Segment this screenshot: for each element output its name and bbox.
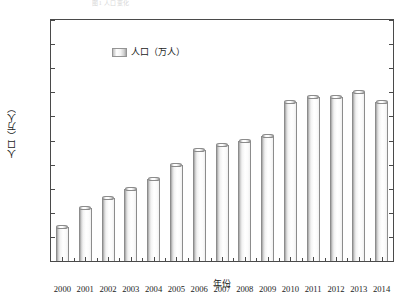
x-axis-tick bbox=[85, 257, 86, 261]
bar-cap bbox=[262, 134, 274, 138]
x-axis-minor-tick bbox=[188, 258, 189, 261]
x-axis-minor-tick bbox=[256, 258, 257, 261]
bar-cap bbox=[307, 95, 319, 99]
bar bbox=[307, 97, 320, 261]
legend-swatch-icon bbox=[112, 48, 127, 57]
bar-cap bbox=[216, 143, 228, 147]
x-axis-minor-tick bbox=[233, 258, 234, 261]
x-axis-minor-tick bbox=[74, 258, 75, 261]
bar bbox=[147, 179, 160, 261]
bar bbox=[284, 102, 297, 261]
bar-cap bbox=[193, 148, 205, 152]
y-axis-tick-right bbox=[389, 189, 393, 190]
y-axis-tick bbox=[51, 92, 55, 93]
plot-area: 3 8003 8053 8103 8153 8203 8253 8303 835… bbox=[50, 19, 394, 262]
population-bar-chart: 图1 人口变化 人口（万人） 3 8003 8053 8103 8153 820… bbox=[0, 0, 409, 302]
x-axis-tick bbox=[290, 257, 291, 261]
bar-cap bbox=[284, 100, 296, 104]
bar bbox=[216, 145, 229, 261]
x-axis-tick bbox=[222, 257, 223, 261]
bar bbox=[170, 165, 183, 261]
y-axis-tick bbox=[51, 20, 55, 21]
x-axis-tick bbox=[359, 257, 360, 261]
x-axis-tick bbox=[62, 257, 63, 261]
x-axis-tick bbox=[199, 257, 200, 261]
bar bbox=[56, 227, 69, 261]
plot-inner: 3 8003 8053 8103 8153 8203 8253 8303 835… bbox=[51, 20, 393, 261]
y-axis-tick bbox=[51, 68, 55, 69]
bar-cap bbox=[148, 177, 160, 181]
bar-cap bbox=[353, 90, 365, 94]
x-axis-minor-tick bbox=[370, 258, 371, 261]
y-axis-tick-right bbox=[389, 92, 393, 93]
y-axis-tick-right bbox=[389, 165, 393, 166]
bar-cap bbox=[376, 100, 388, 104]
y-axis-tick-right bbox=[389, 44, 393, 45]
y-axis-tick bbox=[51, 189, 55, 190]
x-axis-tick bbox=[131, 257, 132, 261]
bar bbox=[102, 198, 115, 261]
bar bbox=[238, 141, 251, 262]
x-axis-minor-tick bbox=[325, 258, 326, 261]
x-axis-tick bbox=[268, 257, 269, 261]
x-axis-minor-tick bbox=[165, 258, 166, 261]
bar-cap bbox=[125, 187, 137, 191]
chart-legend: 人口（万人） bbox=[112, 47, 185, 57]
y-axis-tick-right bbox=[389, 68, 393, 69]
y-axis-tick bbox=[51, 141, 55, 142]
bar bbox=[352, 92, 365, 261]
y-axis-tick-right bbox=[389, 261, 393, 262]
bar bbox=[79, 208, 92, 261]
x-axis-minor-tick bbox=[119, 258, 120, 261]
legend-label: 人口（万人） bbox=[131, 47, 185, 57]
bar-cap bbox=[170, 163, 182, 167]
x-axis-tick bbox=[176, 257, 177, 261]
x-axis-tick bbox=[245, 257, 246, 261]
x-axis-minor-tick bbox=[142, 258, 143, 261]
x-axis-tick bbox=[154, 257, 155, 261]
y-axis-tick-right bbox=[389, 141, 393, 142]
y-axis-title: 人口（万人） bbox=[6, 104, 20, 158]
y-axis-tick bbox=[51, 165, 55, 166]
bar bbox=[261, 136, 274, 261]
y-axis-tick bbox=[51, 261, 55, 262]
x-axis-minor-tick bbox=[97, 258, 98, 261]
bar-cap bbox=[102, 196, 114, 200]
bar-cap bbox=[79, 206, 91, 210]
y-axis-tick-right bbox=[389, 20, 393, 21]
bar bbox=[330, 97, 343, 261]
y-axis-tick bbox=[51, 44, 55, 45]
x-axis-minor-tick bbox=[211, 258, 212, 261]
x-axis-minor-tick bbox=[302, 258, 303, 261]
bar-cap bbox=[56, 225, 68, 229]
bar bbox=[193, 150, 206, 261]
bar bbox=[124, 189, 137, 261]
bar-cap bbox=[330, 95, 342, 99]
y-axis-tick-right bbox=[389, 237, 393, 238]
y-axis-tick-right bbox=[389, 116, 393, 117]
top-caption-sliver: 图1 人口变化 bbox=[76, 0, 146, 7]
x-axis-tick bbox=[336, 257, 337, 261]
bar-cap bbox=[239, 139, 251, 143]
y-axis-tick bbox=[51, 116, 55, 117]
x-axis-title: 年份 bbox=[50, 279, 394, 290]
x-axis-tick bbox=[313, 257, 314, 261]
x-axis-minor-tick bbox=[279, 258, 280, 261]
y-axis-tick bbox=[51, 237, 55, 238]
x-axis-tick bbox=[382, 257, 383, 261]
bar bbox=[375, 102, 388, 261]
x-axis-tick bbox=[108, 257, 109, 261]
y-axis-tick bbox=[51, 213, 55, 214]
y-axis-tick-right bbox=[389, 213, 393, 214]
x-axis-minor-tick bbox=[347, 258, 348, 261]
